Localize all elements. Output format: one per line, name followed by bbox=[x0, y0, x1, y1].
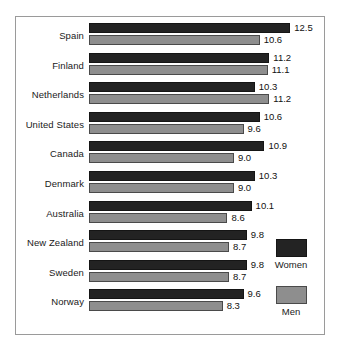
bar-men[interactable] bbox=[89, 242, 229, 252]
bars-wrap: 10.311.2 bbox=[89, 82, 324, 108]
bar-row: 11.2 bbox=[89, 94, 324, 104]
bar-men[interactable] bbox=[89, 301, 223, 311]
bar-men[interactable] bbox=[89, 94, 269, 104]
legend-entry-women[interactable]: Women bbox=[268, 239, 314, 271]
bars-wrap: 11.211.1 bbox=[89, 53, 324, 79]
bars-wrap: 10.99.0 bbox=[89, 141, 324, 167]
bar-row: 10.9 bbox=[89, 141, 324, 151]
bar-men[interactable] bbox=[89, 153, 234, 163]
bar-women[interactable] bbox=[89, 112, 260, 122]
category-label: Canada bbox=[16, 145, 84, 163]
bar-row: 8.6 bbox=[89, 213, 324, 223]
chart-frame: Spain12.510.6Finland11.211.1Netherlands1… bbox=[15, 16, 325, 335]
bar-value-label: 10.3 bbox=[259, 81, 278, 93]
bar-row: 9.0 bbox=[89, 183, 324, 193]
bar-row: 9.6 bbox=[89, 124, 324, 134]
bar-value-label: 10.9 bbox=[268, 140, 287, 152]
bar-value-label: 8.7 bbox=[233, 271, 246, 283]
bar-women[interactable] bbox=[89, 53, 269, 63]
bar-value-label: 12.5 bbox=[294, 22, 313, 34]
bar-value-label: 10.3 bbox=[259, 170, 278, 182]
bar-men[interactable] bbox=[89, 213, 227, 223]
bar-value-label: 8.6 bbox=[231, 212, 244, 224]
category-label: Norway bbox=[16, 293, 84, 311]
bar-value-label: 11.2 bbox=[273, 52, 291, 64]
bar-women[interactable] bbox=[89, 230, 247, 240]
category-label: Netherlands bbox=[16, 86, 84, 104]
category-label: Denmark bbox=[16, 175, 84, 193]
bar-women[interactable] bbox=[89, 201, 252, 211]
bar-men[interactable] bbox=[89, 272, 229, 282]
bar-value-label: 10.1 bbox=[256, 200, 275, 212]
legend-label: Women bbox=[268, 259, 314, 271]
bar-value-label: 10.6 bbox=[264, 34, 283, 46]
bar-value-label: 10.6 bbox=[264, 111, 283, 123]
bar-group: Finland11.211.1 bbox=[16, 53, 324, 79]
bar-group: United States10.69.6 bbox=[16, 112, 324, 138]
bar-women[interactable] bbox=[89, 260, 247, 270]
bar-men[interactable] bbox=[89, 65, 268, 75]
bar-women[interactable] bbox=[89, 82, 255, 92]
bar-row: 10.3 bbox=[89, 171, 324, 181]
bar-value-label: 9.8 bbox=[251, 229, 264, 241]
chart-legend: WomenMen bbox=[268, 239, 314, 329]
bar-value-label: 9.8 bbox=[251, 259, 264, 271]
bars-wrap: 12.510.6 bbox=[89, 23, 324, 49]
category-label: Spain bbox=[16, 27, 84, 45]
bar-row: 10.3 bbox=[89, 82, 324, 92]
legend-label: Men bbox=[268, 306, 314, 318]
bar-row: 11.1 bbox=[89, 65, 324, 75]
bar-group: Denmark10.39.0 bbox=[16, 171, 324, 197]
bar-row: 10.6 bbox=[89, 112, 324, 122]
category-label: United States bbox=[16, 116, 84, 134]
bar-women[interactable] bbox=[89, 141, 264, 151]
category-label: Sweden bbox=[16, 264, 84, 282]
bars-wrap: 10.69.6 bbox=[89, 112, 324, 138]
category-label: Australia bbox=[16, 205, 84, 223]
bar-group: Spain12.510.6 bbox=[16, 23, 324, 49]
bar-value-label: 8.7 bbox=[233, 241, 246, 253]
category-label: Finland bbox=[16, 57, 84, 75]
bar-women[interactable] bbox=[89, 23, 290, 33]
bars-wrap: 10.39.0 bbox=[89, 171, 324, 197]
bar-value-label: 9.0 bbox=[238, 182, 251, 194]
legend-entry-men[interactable]: Men bbox=[268, 286, 314, 318]
bar-group: Netherlands10.311.2 bbox=[16, 82, 324, 108]
bar-group: Australia10.18.6 bbox=[16, 201, 324, 227]
category-label: New Zealand bbox=[16, 234, 84, 252]
bar-value-label: 8.3 bbox=[227, 300, 240, 312]
bar-group: Canada10.99.0 bbox=[16, 141, 324, 167]
bar-men[interactable] bbox=[89, 35, 260, 45]
bar-men[interactable] bbox=[89, 183, 234, 193]
legend-swatch-women bbox=[276, 239, 307, 257]
bar-value-label: 11.2 bbox=[273, 93, 291, 105]
bar-row: 9.0 bbox=[89, 153, 324, 163]
bar-value-label: 9.0 bbox=[238, 152, 251, 164]
legend-swatch-men bbox=[276, 286, 307, 304]
bar-row: 12.5 bbox=[89, 23, 324, 33]
bar-row: 10.6 bbox=[89, 35, 324, 45]
bar-men[interactable] bbox=[89, 124, 244, 134]
bar-value-label: 9.6 bbox=[248, 288, 261, 300]
bar-value-label: 11.1 bbox=[272, 64, 290, 76]
bar-women[interactable] bbox=[89, 289, 244, 299]
bar-value-label: 9.6 bbox=[248, 123, 261, 135]
bars-wrap: 10.18.6 bbox=[89, 201, 324, 227]
bar-women[interactable] bbox=[89, 171, 255, 181]
bar-row: 11.2 bbox=[89, 53, 324, 63]
bar-row: 10.1 bbox=[89, 201, 324, 211]
